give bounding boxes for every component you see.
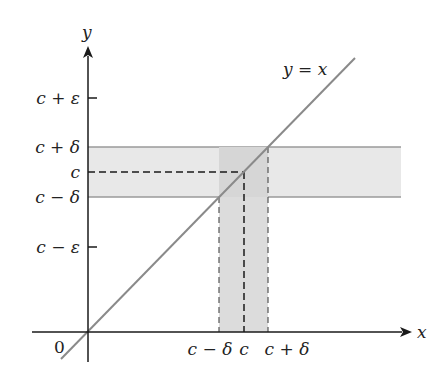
epsilon-delta-diagram: y x 0 y = x c + ε c + δ c c − δ c − ε c … [0,0,445,387]
y-tick-label-c: c [70,162,80,182]
x-axis-label: x [417,322,427,342]
y-tick-label-c-minus-epsilon: c − ε [36,237,80,257]
x-tick-label-c-minus-delta: c − δ [188,339,233,359]
y-tick-label-c-minus-delta: c − δ [35,187,80,207]
y-tick-label-c-plus-epsilon: c + ε [36,88,80,108]
origin-label: 0 [54,337,65,357]
y-tick-label-c-plus-delta: c + δ [35,137,80,157]
y-axis-label: y [81,22,92,42]
x-tick-label-c-plus-delta: c + δ [265,339,310,359]
line-y-equals-x [61,58,355,359]
x-tick-label-c: c [239,339,249,359]
line-label: y = x [282,59,328,79]
